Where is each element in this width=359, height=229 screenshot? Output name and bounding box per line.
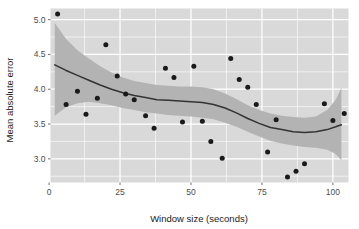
data-point xyxy=(220,156,225,161)
data-point xyxy=(342,111,347,116)
x-tick-label: 100 xyxy=(326,187,340,197)
data-point xyxy=(274,117,279,122)
data-point xyxy=(200,119,205,124)
data-point xyxy=(322,101,327,106)
data-point xyxy=(237,77,242,82)
data-point xyxy=(171,75,176,80)
data-point xyxy=(55,12,60,17)
data-point xyxy=(83,112,88,117)
x-tick-label: 50 xyxy=(186,187,196,197)
x-tick-label: 0 xyxy=(47,187,52,197)
data-point xyxy=(294,169,299,174)
data-point xyxy=(285,174,290,179)
y-tick-label: 5.0 xyxy=(34,15,46,25)
y-tick-label: 3.5 xyxy=(34,119,46,129)
x-tick-label: 75 xyxy=(257,187,267,197)
data-point xyxy=(265,149,270,154)
data-point xyxy=(75,89,80,94)
data-point xyxy=(143,113,148,118)
data-point xyxy=(95,96,100,101)
scatter-plot-svg: 0255075100 3.03.54.04.55.0 Window size (… xyxy=(0,0,359,229)
data-point xyxy=(115,74,120,79)
data-point xyxy=(123,92,128,97)
data-point xyxy=(302,161,307,166)
data-point xyxy=(103,42,108,47)
data-point xyxy=(152,126,157,131)
data-point xyxy=(330,118,335,123)
data-point xyxy=(132,97,137,102)
y-tick-label: 4.0 xyxy=(34,84,46,94)
y-axis-title: Mean absolute error xyxy=(4,57,15,142)
y-tick-label: 4.5 xyxy=(34,49,46,59)
data-point xyxy=(245,85,250,90)
data-point xyxy=(208,139,213,144)
y-tick-label: 3.0 xyxy=(34,154,46,164)
x-tick-label: 25 xyxy=(115,187,125,197)
data-point xyxy=(228,56,233,61)
data-point xyxy=(163,66,168,71)
chart-figure: 0255075100 3.03.54.04.55.0 Window size (… xyxy=(0,0,359,229)
data-point xyxy=(180,119,185,124)
data-point xyxy=(254,102,259,107)
x-axis-title: Window size (seconds) xyxy=(150,213,248,224)
data-point xyxy=(64,102,69,107)
data-point xyxy=(191,64,196,69)
